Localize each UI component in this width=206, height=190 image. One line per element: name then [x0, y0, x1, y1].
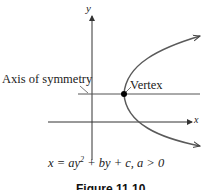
equation: x = ay2 + by + c, a > 0	[48, 155, 164, 171]
vertex-dot	[121, 91, 127, 97]
equation-prefix: x = ay	[48, 156, 80, 170]
figure-caption: Figure 11.10	[76, 182, 145, 190]
x-axis-label: x	[194, 114, 198, 125]
y-axis-label: y	[86, 2, 91, 14]
parabola-curve-lower	[124, 94, 200, 146]
axis-of-symmetry-leader	[80, 86, 88, 93]
vertex-label: Vertex	[130, 78, 163, 93]
equation-suffix: + by + c, a > 0	[84, 156, 164, 170]
axis-of-symmetry-label: Axis of symmetry	[2, 72, 92, 87]
